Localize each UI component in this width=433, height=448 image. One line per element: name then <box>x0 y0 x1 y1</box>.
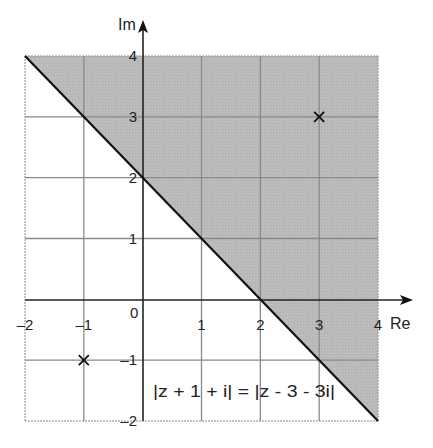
y-tick-label: 1 <box>129 230 137 247</box>
x-tick-label: 2 <box>256 316 264 333</box>
y-tick-label: 2 <box>129 169 137 186</box>
x-tick-label: –1 <box>75 316 92 333</box>
im-axis-label: Im <box>118 16 136 33</box>
re-axis-label: Re <box>390 315 411 332</box>
argand-diagram: –2–112344321–1–2 Re Im 0 |z + 1 + i| = |… <box>0 0 433 448</box>
diagram-svg: –2–112344321–1–2 Re Im 0 |z + 1 + i| = |… <box>0 0 433 448</box>
x-tick-label: 1 <box>197 316 205 333</box>
y-tick-label: –2 <box>120 412 137 429</box>
x-tick-label: 4 <box>374 316 382 333</box>
x-tick-label: –2 <box>17 316 34 333</box>
x-tick-label: 3 <box>315 316 323 333</box>
origin-label: 0 <box>130 304 138 321</box>
y-tick-label: 4 <box>129 47 137 64</box>
equation-label: |z + 1 + i| = |z - 3 - 3i| <box>153 383 335 400</box>
y-tick-label: 3 <box>129 108 137 125</box>
y-tick-label: –1 <box>120 351 137 368</box>
